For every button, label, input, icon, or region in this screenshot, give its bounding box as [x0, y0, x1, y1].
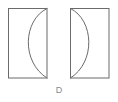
- figure-label: D: [0, 84, 118, 96]
